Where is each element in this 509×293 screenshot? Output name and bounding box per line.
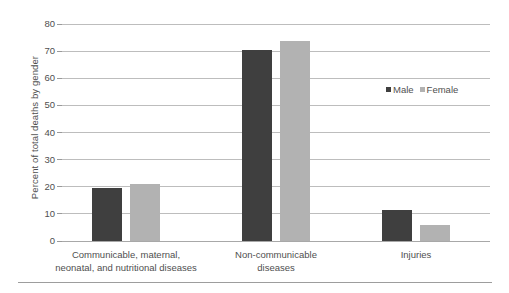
plot-area [61,24,490,241]
gridline [61,105,490,106]
gridline [61,24,490,25]
y-axis-tick-label: 40 [29,128,55,138]
y-axis-tick-label: 70 [29,46,55,56]
y-axis-tick-mark [57,78,62,79]
gridline [61,213,490,214]
gridline [61,132,490,133]
y-axis-tick-label: 20 [29,182,55,192]
y-axis-tick-mark [57,132,62,133]
y-axis-tick-mark [57,241,62,242]
bottom-divider [18,282,492,283]
legend-label: Male [393,84,414,95]
category-label-line: neonatal, and nutritional diseases [31,262,221,275]
y-axis-tick-label: 30 [29,155,55,165]
gridline [61,159,490,160]
y-axis-tick-mark [57,51,62,52]
x-axis-category-label: Non-communicablediseases [216,249,336,274]
legend-label: Female [427,84,459,95]
y-axis-tick-mark [57,159,62,160]
y-axis-tick-mark [57,213,62,214]
category-label-line: Injuries [361,249,471,262]
category-label-line: Non-communicable [216,249,336,262]
y-axis-tick-mark [57,105,62,106]
male-swatch-icon [386,87,391,92]
legend-item-male[interactable]: Male [386,84,414,95]
bar-male-1 [92,188,122,241]
y-axis-tick-label: 60 [29,73,55,83]
bar-female-3 [420,225,450,241]
legend-item-female[interactable]: Female [420,84,459,95]
x-axis-category-label: Injuries [361,249,471,262]
chart-legend: MaleFemale [386,84,458,95]
bar-chart: Percent of total deaths by gender 010203… [0,0,509,293]
gridline [61,78,490,79]
gridline [61,51,490,52]
y-axis-tick-label: 0 [29,236,55,246]
y-axis-tick-label: 80 [29,19,55,29]
bar-male-2 [242,50,272,241]
female-swatch-icon [420,87,425,92]
bar-female-1 [130,184,160,241]
y-axis-tick-labels: 01020304050607080 [27,24,55,241]
y-axis-tick-label: 10 [29,209,55,219]
gridline [61,186,490,187]
category-label-line: diseases [216,262,336,275]
category-label-line: Communicable, maternal, [31,249,221,262]
bar-male-3 [382,210,412,241]
y-axis-tick-label: 50 [29,100,55,110]
bar-female-2 [280,41,310,241]
y-axis-tick-mark [57,186,62,187]
x-axis-category-label: Communicable, maternal,neonatal, and nut… [31,249,221,274]
y-axis-tick-mark [57,24,62,25]
